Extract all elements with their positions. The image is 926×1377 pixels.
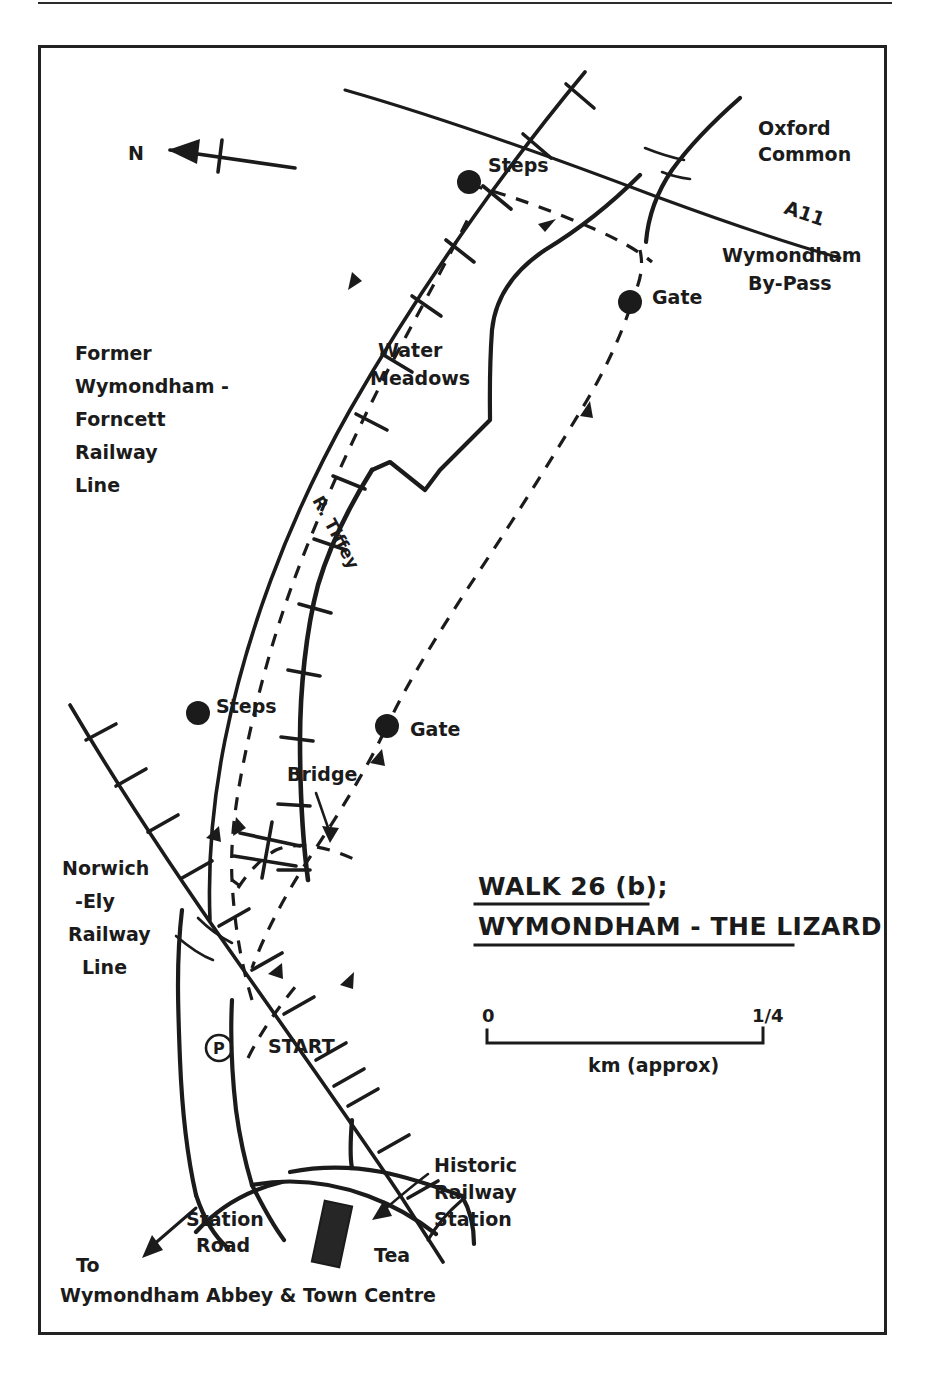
page-header-rule — [38, 2, 892, 4]
map-border-frame — [38, 45, 887, 1335]
page-canvas: N Former Wymondham - Forn — [0, 0, 926, 1377]
